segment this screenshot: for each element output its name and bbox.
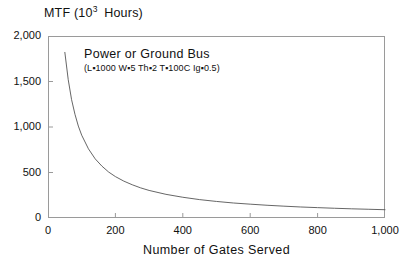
x-tick-label-400: 400 [174,224,192,236]
x-axis-title: Number of Gates Served [48,243,385,257]
y-tick-label-2000: 2,000 [0,29,44,41]
x-tick-label-0: 0 [45,224,51,236]
y-axis-title-exponent: 3 [93,4,98,14]
curve-annotation: Power or Ground Bus (L▪1000 W▪5 Th▪2 T▪1… [84,47,220,73]
annotation-params: (L▪1000 W▪5 Th▪2 T▪100C Ig▪0.5) [84,63,220,73]
y-axis-title-suffix: Hours) [101,6,143,20]
y-axis-title: MTF (103 Hours) [44,6,143,20]
x-tick-label-800: 800 [308,224,326,236]
chart-figure: MTF (103 Hours) 05001,0001,5002,000 0200… [0,0,401,268]
x-tick-label-600: 600 [241,224,259,236]
y-axis-title-prefix: MTF (10 [44,6,93,20]
y-tick-label-0: 0 [0,211,44,223]
x-tick-label-200: 200 [106,224,124,236]
data-line-power-or-ground-bus [65,52,385,209]
y-tick-label-1000: 1,000 [0,120,44,132]
y-tick-label-1500: 1,500 [0,75,44,87]
x-tick-label-1000: 1,000 [371,224,399,236]
annotation-title: Power or Ground Bus [84,47,220,61]
y-tick-label-500: 500 [0,166,44,178]
